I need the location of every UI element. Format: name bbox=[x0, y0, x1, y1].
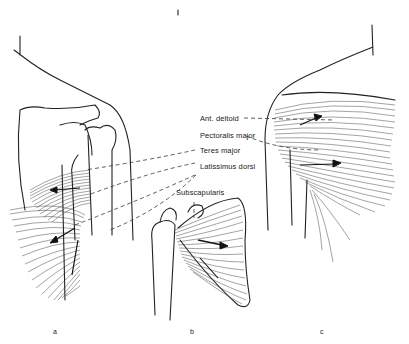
panel-label-b: b bbox=[190, 328, 194, 335]
panel-label-a: a bbox=[53, 328, 57, 335]
panel-b-drawing bbox=[152, 198, 250, 320]
panel-c-drawing bbox=[244, 25, 395, 262]
label-pectoralis-major: Pectoralis major bbox=[200, 131, 255, 140]
label-subscapularis: Subscapularis bbox=[176, 188, 224, 197]
label-latissimus-dorsi: Latissimus dorsi bbox=[200, 162, 255, 171]
panel-a-drawing bbox=[10, 36, 196, 300]
panel-label-c: c bbox=[320, 328, 324, 335]
label-teres-major: Teres major bbox=[200, 146, 240, 155]
label-ant-deltoid: Ant. deltoid bbox=[200, 114, 239, 123]
shoulder-muscles-illustration bbox=[0, 0, 409, 344]
